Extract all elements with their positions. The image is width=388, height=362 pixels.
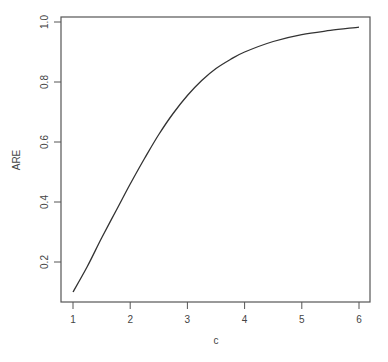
y-tick-label: 0.6 bbox=[39, 135, 50, 149]
plot-frame bbox=[61, 17, 370, 302]
line-chart: 0.20.40.60.81.0 123456 c ARE bbox=[0, 0, 388, 362]
y-tick-label: 0.2 bbox=[39, 255, 50, 269]
x-tick-label: 3 bbox=[185, 314, 191, 325]
x-axis-label: c bbox=[214, 335, 219, 346]
x-tick-label: 4 bbox=[242, 314, 248, 325]
y-tick-label: 0.4 bbox=[39, 195, 50, 209]
y-tick-label: 1.0 bbox=[39, 15, 50, 29]
x-tick-label: 5 bbox=[299, 314, 305, 325]
x-tick-label: 1 bbox=[70, 314, 76, 325]
x-tick-label: 2 bbox=[127, 314, 133, 325]
y-tick-label: 0.8 bbox=[39, 75, 50, 89]
x-axis: 123456 bbox=[70, 302, 362, 325]
y-axis: 0.20.40.60.81.0 bbox=[39, 15, 61, 269]
x-tick-label: 6 bbox=[356, 314, 362, 325]
are-curve bbox=[73, 27, 359, 292]
y-axis-label: ARE bbox=[11, 149, 22, 170]
